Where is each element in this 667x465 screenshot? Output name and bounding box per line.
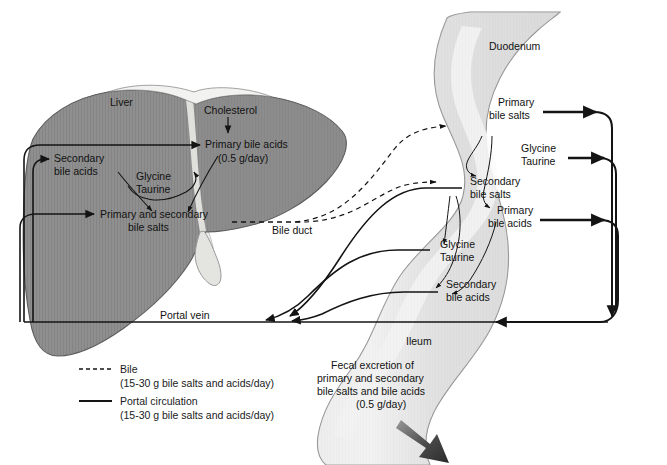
label-glycine-liver: Glycine: [136, 170, 171, 182]
label-primary-bile-acids-rate: (0.5 g/day): [218, 152, 268, 164]
label-taurine-liver: Taurine: [136, 183, 171, 195]
label-primary-secondary-bile-salts-line1: Primary and secondary: [100, 208, 209, 220]
enterohepatic-circulation-diagram: Liver Duodenum Ileum Bile duct Portal ve…: [0, 0, 667, 465]
label-primary-bile-acids: Primary bile acids: [205, 138, 288, 150]
legend-portal-label: Portal circulation: [120, 395, 198, 407]
label-bile-duct: Bile duct: [272, 224, 312, 236]
diagram-canvas: Liver Duodenum Ileum Bile duct Portal ve…: [0, 0, 667, 465]
label-duodenum: Duodenum: [489, 40, 541, 52]
label-glycine-ileum: Glycine: [440, 238, 475, 250]
legend-bile-label: Bile: [120, 363, 138, 375]
label-ileum: Ileum: [406, 335, 432, 347]
label-primary-bile-acids-intestine-line2: bile acids: [488, 217, 532, 229]
label-primary-bile-salts-line1: Primary: [498, 96, 535, 108]
label-secondary-bile-salts-line1: Secondary: [470, 175, 521, 187]
label-secondary-bile-acids-line2: bile acids: [54, 165, 98, 177]
label-taurine-duodenum: Taurine: [521, 155, 556, 167]
label-cholesterol: Cholesterol: [204, 104, 257, 116]
label-secondary-bile-acids-intestine-line2: bile acids: [446, 291, 490, 303]
legend-bile-rate: (15-30 g bile salts and acids/day): [120, 377, 274, 389]
label-glycine-duodenum: Glycine: [521, 142, 556, 154]
legend-portal-rate: (15-30 g bile salts and acids/day): [120, 409, 274, 421]
label-fecal-rate: (0.5 g/day): [356, 398, 406, 410]
label-portal-vein: Portal vein: [160, 309, 210, 321]
label-fecal-line3: bile salts and bile acids: [317, 385, 425, 397]
label-liver: Liver: [110, 96, 133, 108]
label-primary-bile-salts-line2: bile salts: [489, 109, 530, 121]
label-secondary-bile-acids-line1: Secondary: [54, 152, 105, 164]
label-primary-bile-acids-intestine-line1: Primary: [497, 204, 534, 216]
label-secondary-bile-salts-line2: bile salts: [470, 188, 511, 200]
label-taurine-ileum: Taurine: [440, 251, 475, 263]
label-fecal-line1: Fecal excretion of: [331, 359, 414, 371]
label-secondary-bile-acids-intestine-line1: Secondary: [446, 278, 497, 290]
label-primary-secondary-bile-salts-line2: bile salts: [128, 221, 169, 233]
label-fecal-line2: primary and secondary: [317, 372, 425, 384]
